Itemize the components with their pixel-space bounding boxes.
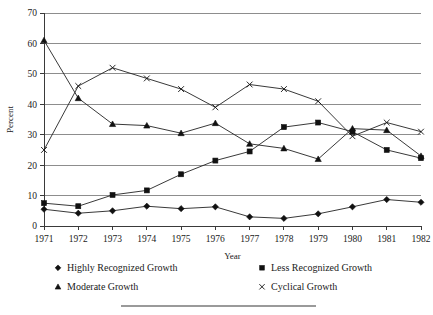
- y-tick-label: 50: [28, 69, 38, 79]
- y-axis-title: Percent: [5, 106, 15, 133]
- legend-item-moderate-growth[interactable]: Moderate Growth: [55, 281, 138, 292]
- chart-legend: Highly Recognized GrowthLess Recognized …: [55, 262, 372, 292]
- data-point-marker-square: [213, 158, 218, 163]
- data-point-marker-cross: [384, 120, 390, 126]
- data-point-marker-diamond: [75, 210, 81, 216]
- plot-axes: [44, 13, 421, 230]
- data-point-marker-square: [76, 204, 81, 209]
- data-point-marker-diamond: [41, 206, 47, 212]
- x-axis-ticklabels: 1971197219731974197519761977197819791980…: [35, 234, 431, 244]
- data-point-marker-cross: [259, 284, 264, 289]
- data-point-marker-square: [281, 125, 286, 130]
- data-point-marker-square: [144, 188, 149, 193]
- data-point-marker-square: [179, 172, 184, 177]
- data-point-marker-cross: [315, 98, 321, 104]
- data-point-marker-cross: [110, 65, 116, 71]
- chart-figure: 010203040506070 197119721973197419751976…: [0, 0, 433, 315]
- x-tick-label: 1979: [309, 234, 328, 244]
- y-tick-label: 40: [28, 100, 38, 110]
- y-tick-label: 10: [28, 191, 38, 201]
- data-point-marker-square: [42, 201, 47, 206]
- legend-item-cyclical-growth[interactable]: Cyclical Growth: [259, 281, 337, 292]
- y-tick-label: 0: [32, 221, 37, 231]
- legend-item-highly-recognized-growth[interactable]: Highly Recognized Growth: [55, 262, 177, 273]
- x-tick-label: 1976: [206, 234, 225, 244]
- y-tick-label: 30: [28, 130, 38, 140]
- x-tick-label: 1975: [172, 234, 191, 244]
- data-point-marker-diamond: [384, 196, 390, 202]
- x-tick-label: 1982: [412, 234, 431, 244]
- data-point-marker-triangle: [247, 141, 253, 147]
- data-point-marker-diamond: [178, 206, 184, 212]
- x-axis-label-text: Year: [224, 251, 241, 261]
- data-point-marker-cross: [178, 86, 184, 92]
- data-point-marker-square: [316, 120, 321, 125]
- data-point-marker-square: [260, 266, 265, 271]
- data-series-group: [41, 37, 424, 221]
- series-highly-recognized-growth: [41, 196, 424, 221]
- data-point-marker-diamond: [349, 204, 355, 210]
- data-point-marker-triangle: [41, 37, 47, 43]
- series-line: [44, 40, 421, 159]
- line-chart: 010203040506070 197119721973197419751976…: [0, 0, 433, 315]
- series-moderate-growth: [41, 37, 424, 161]
- legend-item-label: Less Recognized Growth: [271, 262, 372, 273]
- data-point-marker-square: [110, 192, 115, 197]
- series-line: [44, 200, 421, 219]
- x-tick-label: 1980: [343, 234, 362, 244]
- data-point-marker-diamond: [281, 215, 287, 221]
- data-point-marker-diamond: [109, 208, 115, 214]
- legend-item-label: Highly Recognized Growth: [67, 262, 178, 273]
- x-tick-label: 1978: [274, 234, 293, 244]
- data-point-marker-cross: [75, 83, 81, 89]
- y-axis-ticklabels: 010203040506070: [28, 8, 38, 231]
- legend-item-label: Cyclical Growth: [271, 281, 337, 292]
- data-point-marker-diamond: [315, 211, 321, 217]
- data-point-marker-cross: [418, 129, 424, 135]
- data-point-marker-diamond: [144, 203, 150, 209]
- data-point-marker-cross: [144, 76, 150, 82]
- plot-gridlines: [40, 13, 421, 226]
- x-tick-label: 1972: [69, 234, 88, 244]
- data-point-marker-diamond: [247, 214, 253, 220]
- data-point-marker-square: [384, 147, 389, 152]
- data-point-marker-diamond: [212, 204, 218, 210]
- data-point-marker-cross: [212, 104, 218, 110]
- y-tick-label: 70: [28, 8, 38, 18]
- data-point-marker-square: [247, 149, 252, 154]
- x-tick-label: 1971: [35, 234, 54, 244]
- data-point-marker-triangle: [55, 284, 61, 289]
- y-tick-label: 60: [28, 39, 38, 49]
- data-point-marker-triangle: [75, 95, 81, 101]
- x-tick-label: 1981: [377, 234, 396, 244]
- x-axis-title: Year: [224, 251, 241, 261]
- data-point-marker-diamond: [55, 265, 61, 271]
- data-point-marker-triangle: [212, 120, 218, 126]
- legend-item-less-recognized-growth[interactable]: Less Recognized Growth: [260, 262, 372, 273]
- data-point-marker-diamond: [418, 199, 424, 205]
- legend-item-label: Moderate Growth: [67, 281, 138, 292]
- y-axis-label-text: Percent: [5, 106, 15, 133]
- x-tick-label: 1977: [240, 234, 259, 244]
- x-tick-label: 1974: [137, 234, 156, 244]
- y-tick-label: 20: [28, 161, 38, 171]
- x-tick-label: 1973: [103, 234, 122, 244]
